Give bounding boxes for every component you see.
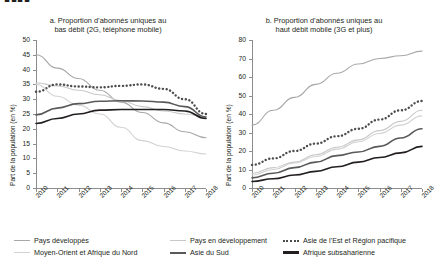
legend-item: Pays en développement: [170, 236, 267, 245]
legend-swatch-icon: [283, 240, 299, 242]
chart-series-line: [36, 84, 206, 154]
legend-item: Pays développés: [14, 236, 89, 245]
legend-item: Asie du Sud: [170, 248, 229, 257]
chart-series-canvas: [0, 36, 216, 226]
chart-b-title: b. Proportion d’abonnés uniques au haut …: [216, 16, 432, 36]
legend-label: Moyen-Orient et Afrique du Nord: [34, 248, 137, 257]
legend-label: Asie de l’Est et Région pacifique: [303, 236, 406, 245]
cutoff-header-fragment: ▮▮▮▮: [4, 0, 30, 2]
chart-series-line: [252, 110, 422, 173]
legend-item: Moyen-Orient et Afrique du Nord: [14, 248, 137, 257]
chart-panel-b: b. Proportion d’abonnés uniques au haut …: [216, 16, 432, 228]
chart-a-title-line2: bas débit (2G, téléphone mobile): [14, 25, 202, 34]
chart-a-title: a. Proportion d’abonnés uniques au bas d…: [0, 16, 216, 36]
legend-swatch-icon: [170, 252, 186, 254]
chart-series-line: [36, 110, 206, 124]
legend-item: Afrique subsaharienne: [283, 248, 375, 257]
legend-label: Afrique subsaharienne: [303, 248, 375, 257]
legend-swatch-icon: [283, 251, 299, 253]
chart-b-title-line1: b. Proportion d’abonnés uniques au: [230, 16, 418, 25]
legend-item: Asie de l’Est et Région pacifique: [283, 236, 406, 245]
chart-b-title-line2: haut débit mobile (3G et plus): [230, 25, 418, 34]
chart-panel-a: a. Proportion d’abonnés uniques au bas d…: [0, 16, 216, 228]
chart-a-plot-area: Part de la population (en %)051015202530…: [0, 36, 216, 226]
chart-b-plot-area: Part de la population (en %)010203040506…: [216, 36, 432, 226]
legend-swatch-icon: [14, 252, 30, 253]
legend-swatch-icon: [14, 240, 30, 241]
chart-series-line: [36, 55, 206, 138]
legend-label: Pays développés: [34, 236, 89, 245]
charts-container: a. Proportion d’abonnés uniques au bas d…: [0, 16, 432, 228]
chart-series-line: [252, 51, 422, 125]
chart-a-title-line1: a. Proportion d’abonnés uniques au: [14, 16, 202, 25]
legend-label: Asie du Sud: [190, 248, 229, 257]
chart-series-line: [252, 146, 422, 181]
legend-swatch-icon: [170, 240, 186, 241]
legend-label: Pays en développement: [190, 236, 267, 245]
chart-series-canvas: [216, 36, 432, 226]
